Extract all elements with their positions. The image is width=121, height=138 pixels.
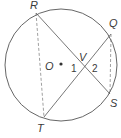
label-s: S (110, 97, 118, 109)
label-t: T (37, 122, 45, 134)
label-q: Q (109, 17, 118, 29)
label-v: V (79, 51, 88, 63)
segment-qs-dashed (110, 34, 111, 94)
angle-label-2: 2 (92, 63, 98, 74)
angle-label-1: 1 (71, 63, 77, 74)
chord-rs (36, 13, 110, 94)
segment-rt-dashed (36, 13, 44, 117)
label-o: O (45, 60, 54, 72)
center-point-dot (59, 62, 62, 65)
circle-diagram: R Q S T V O 1 2 (0, 0, 121, 138)
label-r: R (30, 0, 38, 11)
